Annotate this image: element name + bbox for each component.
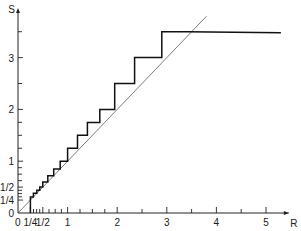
staircase-line — [30, 32, 281, 213]
y-tick-label: 3 — [8, 53, 14, 64]
x-tick-label: 5 — [263, 217, 269, 228]
step-function-chart: 01/41/21234501/41/2123RS — [0, 0, 301, 231]
data-series — [18, 16, 281, 213]
y-tick-label: 1/4 — [0, 195, 14, 206]
x-tick-label: 1/2 — [36, 217, 50, 228]
x-tick-label: 0 — [15, 217, 21, 228]
y-tick-label: 0 — [8, 208, 14, 219]
y-tick-label: 1 — [8, 156, 14, 167]
x-tick-label: 4 — [214, 217, 220, 228]
x-tick-label: 1 — [65, 217, 71, 228]
axes — [16, 8, 289, 215]
x-axis-label: R — [290, 218, 297, 229]
y-tick-label: 1/2 — [0, 182, 14, 193]
x-tick-label: 2 — [114, 217, 120, 228]
x-tick-label: 3 — [164, 217, 170, 228]
y-axis-label: S — [8, 4, 15, 15]
axis-ticks — [18, 32, 266, 213]
diagonal-line — [18, 16, 207, 213]
y-tick-label: 2 — [8, 104, 14, 115]
axis-labels: 01/41/21234501/41/2123RS — [0, 4, 297, 229]
y-axis-arrow-icon — [16, 8, 20, 13]
x-axis-arrow-icon — [284, 211, 289, 215]
